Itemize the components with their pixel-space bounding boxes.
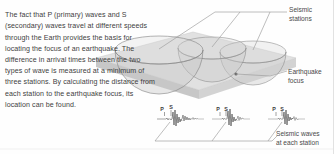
s-marker-station-3: S: [280, 106, 284, 112]
figure-body-text: The fact that P (primary) waves and S (s…: [5, 10, 157, 111]
s-marker-station-2: S: [224, 106, 228, 112]
p-marker-station-3: P: [272, 106, 276, 112]
label-earthquake-focus: Earthquake focus: [288, 68, 322, 85]
p-marker-station-1: P: [160, 106, 164, 112]
pswave-markers: P S P S P S: [160, 104, 284, 112]
label-seismic-waves: Seismic waves at each station: [276, 130, 320, 147]
p-marker-station-2: P: [216, 106, 220, 112]
seismogram-station-1: [157, 110, 204, 126]
s-marker-station-1: S: [169, 104, 173, 110]
seismogram-station-3: [268, 110, 305, 125]
figure-panel: P S P S P S The fact that P (primary) wa…: [0, 0, 334, 154]
label-seismic-stations: Seismic stations: [289, 6, 312, 23]
